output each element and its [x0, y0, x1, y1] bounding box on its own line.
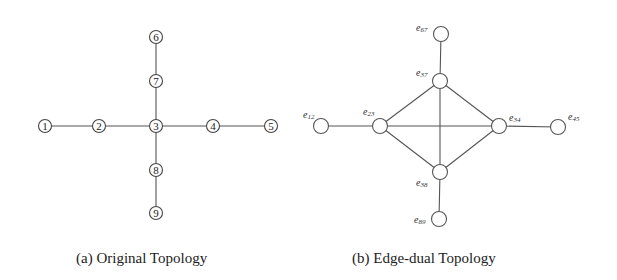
edge-e23-e37: [380, 81, 440, 126]
node-label: e12: [303, 109, 315, 121]
node-circle: [433, 165, 448, 180]
node-label: e37: [416, 67, 428, 79]
node-e12: e12: [303, 109, 329, 134]
node-label: 2: [96, 120, 102, 132]
node-e45: e45: [551, 111, 580, 135]
node-8: 8: [150, 164, 163, 177]
edge-dual-topology-graph: e12e23e34e45e67e37e38e89: [303, 22, 580, 227]
caption-edge-dual-topology: (b) Edge-dual Topology: [352, 250, 496, 267]
node-label: 1: [42, 120, 48, 132]
node-label: 9: [153, 207, 159, 219]
edge-e23-e38: [380, 126, 440, 172]
node-6: 6: [150, 31, 163, 44]
edge-e37-e34: [440, 81, 499, 126]
node-7: 7: [150, 75, 163, 88]
node-label: e67: [416, 22, 428, 34]
edge-e38-e34: [440, 126, 499, 172]
node-label: 8: [153, 164, 159, 176]
node-5: 5: [265, 120, 278, 133]
node-label: 4: [210, 120, 216, 132]
node-label: 3: [153, 120, 159, 132]
node-circle: [373, 119, 388, 134]
node-circle: [314, 119, 329, 134]
edge-dual-topology-edges: [321, 34, 558, 219]
node-circle: [492, 119, 507, 134]
original-topology-nodes: 123456789: [39, 31, 278, 220]
edge-e34-e45: [499, 126, 558, 127]
original-topology-graph: 123456789: [39, 31, 278, 220]
node-4: 4: [207, 120, 220, 133]
node-label: e23: [363, 106, 375, 118]
node-label: e45: [568, 111, 580, 123]
caption-original-topology: (a) Original Topology: [76, 250, 207, 267]
node-circle: [434, 27, 449, 42]
node-e37: e37: [416, 67, 448, 89]
topology-figure: 123456789 e12e23e34e45e67e37e38e89: [0, 0, 617, 280]
node-circle: [432, 212, 447, 227]
edge-dual-topology-nodes: e12e23e34e45e67e37e38e89: [303, 22, 580, 227]
node-e67: e67: [416, 22, 449, 42]
node-circle: [551, 120, 566, 135]
node-label: 5: [268, 120, 274, 132]
node-e34: e34: [492, 112, 521, 134]
node-label: e38: [416, 177, 428, 189]
node-e89: e89: [414, 212, 447, 227]
node-label: e89: [414, 214, 426, 226]
node-3: 3: [150, 120, 163, 133]
node-2: 2: [93, 120, 106, 133]
node-9: 9: [150, 207, 163, 220]
node-label: 7: [153, 75, 159, 87]
node-e23: e23: [363, 106, 388, 134]
node-e38: e38: [416, 165, 448, 190]
node-label: e34: [509, 112, 521, 124]
node-label: 6: [153, 31, 159, 43]
node-1: 1: [39, 120, 52, 133]
node-circle: [433, 74, 448, 89]
